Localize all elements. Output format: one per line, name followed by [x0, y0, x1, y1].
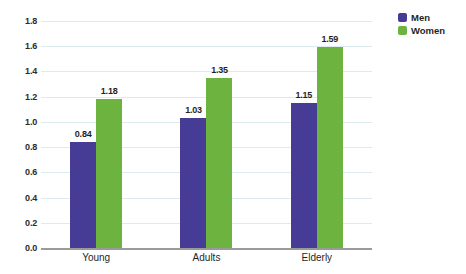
x-axis-line [41, 248, 372, 250]
bar-group-elderly: 1.151.59 [262, 21, 372, 248]
bar-women-adults[interactable]: 1.35 [206, 21, 232, 248]
women-swatch-icon [398, 26, 407, 35]
bar-rect [291, 103, 317, 248]
bar-rect [180, 118, 206, 248]
bar-rect [70, 142, 96, 248]
y-axis-tick-label: 1.8 [3, 16, 37, 26]
bar-group-adults: 1.031.35 [151, 21, 261, 248]
y-axis-tick-labels: 0.00.20.40.60.81.01.21.41.61.8 [0, 21, 37, 248]
bar-men-adults[interactable]: 1.03 [180, 21, 206, 248]
y-axis-tick-label: 0.2 [3, 218, 37, 228]
y-axis-tick-label: 0.0 [3, 243, 37, 253]
y-axis-tick-label: 0.4 [3, 193, 37, 203]
bar-value-label: 1.18 [101, 86, 118, 96]
bar-value-label: 1.59 [321, 34, 338, 44]
y-axis-tick-label: 1.0 [3, 117, 37, 127]
bar-women-elderly[interactable]: 1.59 [317, 21, 343, 248]
bar-value-label: 1.35 [211, 65, 228, 75]
y-axis-tick-label: 1.4 [3, 66, 37, 76]
bar-women-young[interactable]: 1.18 [96, 21, 122, 248]
bar-rect [96, 99, 122, 248]
y-axis-tick-label: 0.8 [3, 142, 37, 152]
legend-label-women: Women [411, 25, 445, 36]
x-axis-label-elderly: Elderly [302, 252, 333, 263]
y-axis-tick-label: 1.2 [3, 92, 37, 102]
x-axis-category-labels: YoungAdultsElderly [41, 252, 372, 272]
x-axis-label-young: Young [82, 252, 110, 263]
y-axis-tick-label: 1.6 [3, 41, 37, 51]
legend: Men Women [398, 12, 445, 36]
bar-group-young: 0.841.18 [41, 21, 151, 248]
legend-item-women[interactable]: Women [398, 25, 445, 36]
y-axis-tick-label: 0.6 [3, 167, 37, 177]
bar-men-elderly[interactable]: 1.15 [291, 21, 317, 248]
bar-value-label: 1.03 [185, 105, 202, 115]
bar-rect [317, 47, 343, 248]
men-swatch-icon [398, 13, 407, 22]
plot-area: 0.841.181.031.351.151.59 [41, 21, 372, 248]
x-axis-label-adults: Adults [193, 252, 221, 263]
legend-item-men[interactable]: Men [398, 12, 445, 23]
bar-chart: 0.841.181.031.351.151.59 0.00.20.40.60.8… [0, 0, 466, 274]
legend-label-men: Men [411, 12, 430, 23]
bar-men-young[interactable]: 0.84 [70, 21, 96, 248]
bar-value-label: 0.84 [75, 129, 92, 139]
bar-rect [206, 78, 232, 248]
bar-value-label: 1.15 [295, 90, 312, 100]
